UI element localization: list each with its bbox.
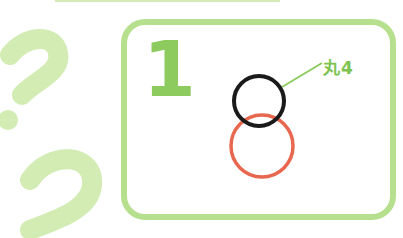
callout-line <box>282 63 322 87</box>
snowman-drawing <box>0 0 403 238</box>
callout-label: 丸4 <box>323 54 354 79</box>
head-circle-shape <box>234 76 284 126</box>
